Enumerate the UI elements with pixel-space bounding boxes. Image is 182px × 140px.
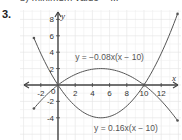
y-tick-label: 6 [50,32,55,41]
y-tick-label: 2 [50,65,55,74]
parabola-chart: -2024681012-4-22468xyy = −0.08x(x − 10)y… [0,0,182,140]
curve-endpoint [176,119,179,122]
y-tick-label: -2 [47,97,55,106]
curves [33,13,179,122]
x-tick-label: 8 [125,89,130,98]
x-tick-label: 10 [140,89,149,98]
x-tick-label: 6 [107,89,112,98]
curve-endpoint [33,37,36,40]
y-tick-label: -4 [47,114,55,123]
y-tick-label: 4 [50,48,55,57]
y-tick-label: 8 [50,15,55,24]
curve-endpoint [176,13,179,16]
x-tick-label: 2 [73,89,78,98]
parabola-curve [34,14,178,118]
x-axis-label: x [171,73,176,83]
x-tick-label: -2 [37,89,45,98]
curve-endpoint [33,107,36,110]
x-tick-label: 0 [51,87,56,96]
equation-label: y = −0.08x(x − 10) [75,52,144,62]
x-tick-label: 4 [90,89,95,98]
grid [20,10,181,140]
x-tick-label: 12 [157,89,166,98]
y-axis-label: y [60,11,65,21]
equation-label: y = 0.16x(x − 10) [94,123,158,133]
